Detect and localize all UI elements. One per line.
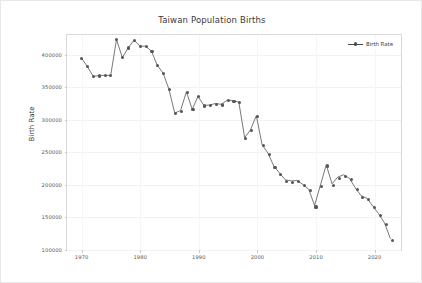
data-point	[314, 205, 317, 208]
data-point	[326, 164, 329, 167]
chart-legend: Birth Rate	[344, 39, 397, 49]
birth-rate-line	[67, 35, 401, 250]
data-point	[356, 188, 359, 191]
data-point	[139, 45, 142, 48]
data-point	[256, 115, 259, 118]
data-point	[273, 166, 276, 169]
data-series-layer	[67, 35, 401, 250]
data-point	[104, 74, 107, 77]
plot-area: 1000001500002000002500003000003500004000…	[66, 34, 402, 251]
data-point	[203, 104, 206, 107]
x-tick-mark	[82, 250, 83, 253]
y-tick-label: 150000	[42, 214, 62, 220]
data-point	[350, 178, 353, 181]
x-tick-label: 1980	[133, 254, 147, 260]
y-tick-label: 300000	[42, 117, 62, 123]
gridline-horizontal	[67, 250, 401, 251]
x-tick-label: 1990	[192, 254, 206, 260]
data-point	[180, 110, 183, 113]
x-tick-label: 2020	[368, 254, 382, 260]
x-tick-label: 2010	[309, 254, 323, 260]
chart-title: Taiwan Population Births	[1, 15, 422, 25]
x-tick-mark	[257, 250, 258, 253]
data-point	[344, 175, 347, 178]
chart-figure: Taiwan Population Births Birth Rate 1000…	[0, 0, 422, 283]
data-point	[309, 189, 312, 192]
x-tick-label: 1970	[75, 254, 89, 260]
y-tick-label: 200000	[42, 182, 62, 188]
data-point	[133, 39, 136, 42]
data-point	[145, 45, 148, 48]
data-point	[268, 153, 271, 156]
data-point	[338, 177, 341, 180]
y-tick-label: 100000	[42, 247, 62, 253]
y-tick-label: 400000	[42, 52, 62, 58]
x-tick-mark	[199, 250, 200, 253]
legend-line-swatch	[348, 44, 363, 45]
y-tick-label: 250000	[42, 149, 62, 155]
data-point	[391, 239, 394, 242]
y-tick-label: 350000	[42, 84, 62, 90]
data-point	[385, 223, 388, 226]
data-point	[332, 184, 335, 187]
data-point	[379, 214, 382, 217]
x-tick-mark	[316, 250, 317, 253]
legend-marker-icon	[354, 42, 357, 45]
x-tick-mark	[140, 250, 141, 253]
data-point	[232, 100, 235, 103]
data-point	[186, 91, 189, 94]
y-tick-mark	[65, 250, 68, 251]
data-point	[291, 181, 294, 184]
x-tick-mark	[375, 250, 376, 253]
y-axis-label: Birth Rate	[28, 86, 36, 162]
data-point	[98, 74, 101, 77]
data-point	[150, 50, 153, 53]
data-point	[215, 103, 218, 106]
data-point	[127, 46, 130, 49]
x-tick-label: 2000	[251, 254, 265, 260]
legend-label-birth-rate: Birth Rate	[366, 41, 393, 47]
data-point	[221, 103, 224, 106]
